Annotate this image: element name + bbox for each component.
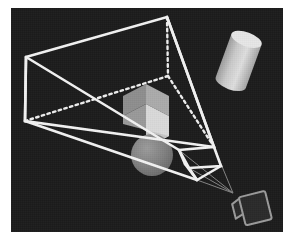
scene-render-plate — [11, 8, 283, 232]
far-plane-left-edge — [25, 57, 26, 121]
hidden-edge-vertical — [167, 17, 168, 76]
figure-root — [0, 0, 300, 242]
camera-body — [239, 191, 272, 226]
scene-canvas — [11, 8, 283, 232]
